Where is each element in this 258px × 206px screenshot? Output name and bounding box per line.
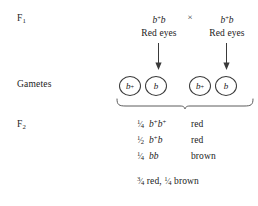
genetics-cross-diagram: F1 Gametes F2 b+b Red eyes × b+b Red eye… [0, 0, 258, 206]
gamete-group-left: b+ b [119, 76, 167, 96]
fraction-denominator: 2 [141, 138, 144, 145]
gamete-circle: b+ [189, 76, 211, 96]
genotype-allele2-superscript: + [163, 118, 167, 125]
stage-label-f1: F1 [17, 13, 26, 24]
summary-second-phenotype: brown [174, 176, 199, 186]
offspring-genotype: b+b+ [149, 118, 191, 129]
fraction-glyph: 1⁄2 [137, 135, 144, 145]
parent-left-allele2: b [161, 15, 166, 25]
offspring-fraction: 1⁄4 [137, 145, 149, 163]
parent-right: b+b Red eyes [199, 11, 255, 40]
summary-second-denominator: 4 [168, 179, 171, 186]
parent-right-allele2: b [229, 15, 234, 25]
brace-connector [116, 98, 254, 110]
offspring-row: 1⁄4 bb brown [137, 145, 216, 161]
down-arrow-icon-left [154, 43, 163, 71]
gamete-circle: b [215, 76, 237, 96]
cross-symbol: × [183, 12, 197, 22]
fraction-glyph: 1⁄4 [137, 119, 144, 129]
stage-label-f2: F2 [17, 119, 26, 130]
offspring-phenotype: brown [191, 151, 216, 161]
genotype-allele2: b [158, 135, 163, 145]
fraction-glyph: 1⁄4 [137, 151, 144, 161]
fraction-denominator: 4 [141, 154, 144, 161]
summary-first-phenotype: red, [147, 176, 162, 186]
parent-left: b+b Red eyes [131, 11, 187, 40]
fraction-denominator: 4 [141, 122, 144, 129]
offspring-phenotype: red [191, 135, 203, 145]
summary-first-denominator: 4 [141, 179, 144, 186]
f2-label-subscript: 2 [22, 123, 25, 130]
gamete-allele-superscript: + [130, 83, 134, 90]
down-arrow-icon-right [222, 43, 231, 71]
gamete-group-right: b+ b [189, 76, 237, 96]
offspring-genotype: b+b [149, 134, 191, 145]
parent-right-genotype: b+b [199, 11, 255, 27]
gamete-circle: b [145, 76, 167, 96]
f1-label-subscript: 1 [22, 17, 25, 24]
offspring-list: 1⁄4 b+b+ red 1⁄2 b+b red 1⁄4 bb brown [137, 113, 216, 161]
parent-right-phenotype: Red eyes [199, 27, 255, 40]
gamete-circle: b+ [119, 76, 141, 96]
genotype-allele2: b [154, 151, 159, 161]
offspring-row: 1⁄2 b+b red [137, 129, 216, 145]
gamete-allele: b [154, 81, 159, 91]
gamete-allele: b [224, 81, 229, 91]
gamete-allele-superscript: + [200, 83, 204, 90]
offspring-genotype: bb [149, 150, 191, 161]
offspring-row: 1⁄4 b+b+ red [137, 113, 216, 129]
phenotype-ratio-summary: 3⁄4 red, 1⁄4 brown [137, 175, 199, 186]
parent-left-phenotype: Red eyes [131, 27, 187, 40]
fraction-glyph: 1⁄4 [164, 176, 171, 186]
stage-label-gametes: Gametes [17, 79, 52, 89]
parent-left-genotype: b+b [131, 11, 187, 27]
fraction-glyph: 3⁄4 [137, 176, 144, 186]
offspring-phenotype: red [191, 119, 203, 129]
